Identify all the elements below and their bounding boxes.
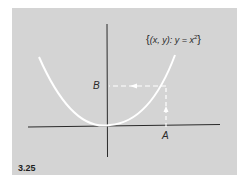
- y-axis: [107, 24, 108, 157]
- point-a-label: A: [162, 130, 169, 141]
- figure-number: 3.25: [18, 163, 36, 173]
- close-brace: }: [197, 33, 201, 45]
- up-arrow-icon: [164, 106, 169, 112]
- set-notation-label: {(x, y): y = x2}: [146, 33, 201, 45]
- x-axis: [28, 125, 220, 128]
- parabola-diagram: [0, 0, 247, 190]
- set-expression: (x, y): y = x: [150, 35, 194, 45]
- left-arrow-icon: [130, 84, 137, 89]
- point-b-label: B: [93, 80, 100, 91]
